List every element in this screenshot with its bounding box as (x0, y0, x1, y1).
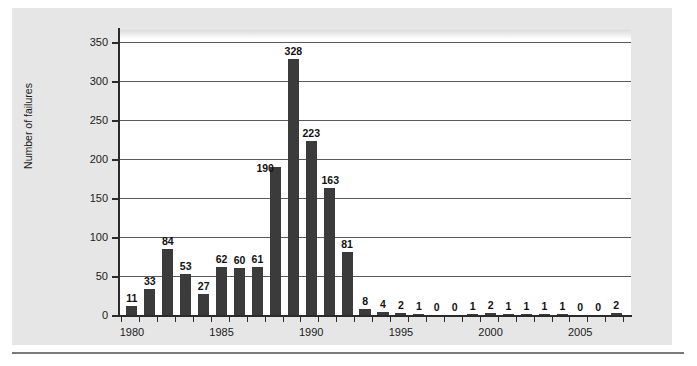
x-axis-line (118, 315, 632, 317)
bar-value-label: 1 (541, 301, 547, 312)
bar (144, 289, 155, 315)
x-tick (318, 315, 319, 322)
bar-value-label: 8 (362, 296, 368, 307)
bar (180, 274, 191, 315)
y-tick-label: 300 (74, 76, 108, 87)
bar (162, 249, 173, 315)
bar-value-label: 190 (256, 163, 274, 174)
x-tick (426, 315, 427, 322)
x-tick (247, 315, 248, 322)
x-tick (372, 315, 373, 322)
y-tick-200 (112, 159, 119, 161)
gridline-150 (119, 198, 631, 199)
x-tick-label: 2000 (478, 326, 502, 338)
y-tick-labels: 050100150200250300350 (68, 0, 108, 366)
x-tick (516, 315, 517, 322)
bar-value-label: 61 (252, 254, 264, 265)
x-tick (605, 315, 606, 322)
bar-value-label: 53 (180, 261, 192, 272)
x-tick-label: 1995 (389, 326, 413, 338)
x-tick-label: 1980 (120, 326, 144, 338)
gridline-300 (119, 81, 631, 82)
bar-value-label: 4 (380, 299, 386, 310)
bar-value-label: 1 (416, 301, 422, 312)
x-tick (157, 315, 158, 322)
x-tick (283, 315, 284, 322)
bar-value-label: 328 (285, 46, 303, 57)
bar-value-label: 27 (198, 281, 210, 292)
gridline-350 (119, 42, 631, 43)
y-tick-300 (112, 81, 119, 83)
bar-value-label: 1 (524, 301, 530, 312)
bar-value-label: 0 (434, 302, 440, 313)
y-tick-label: 150 (74, 193, 108, 204)
gridline-200 (119, 159, 631, 160)
x-tick (121, 315, 122, 322)
y-tick-label: 100 (74, 232, 108, 243)
bar (198, 294, 209, 315)
gridline-100 (119, 237, 631, 238)
x-tick (175, 315, 176, 322)
bar-value-label: 0 (452, 302, 458, 313)
bar-value-label: 2 (398, 300, 404, 311)
x-tick (139, 315, 140, 322)
x-tick (211, 315, 212, 322)
y-tick-350 (112, 42, 119, 44)
x-tick (354, 315, 355, 322)
y-tick-50 (112, 276, 119, 278)
y-tick-label: 200 (74, 154, 108, 165)
y-axis-line (118, 28, 120, 317)
x-tick (498, 315, 499, 322)
bar-value-label: 0 (595, 302, 601, 313)
bar-value-label: 1 (506, 301, 512, 312)
x-tick-label: 2005 (568, 326, 592, 338)
x-tick (229, 315, 230, 322)
bar (216, 267, 227, 315)
bar-value-label: 84 (162, 236, 174, 247)
bar-value-label: 81 (341, 239, 353, 250)
bar (252, 267, 263, 315)
bar (234, 268, 245, 315)
bar-value-label: 11 (126, 293, 137, 304)
x-tick (552, 315, 553, 322)
x-tick (408, 315, 409, 322)
y-tick-250 (112, 120, 119, 122)
bottom-rule (12, 352, 684, 354)
x-tick (336, 315, 337, 322)
bar-value-label: 1 (559, 301, 565, 312)
x-tick (569, 315, 570, 322)
bar (288, 59, 299, 315)
bar (270, 167, 281, 315)
bar-value-label: 163 (322, 175, 340, 186)
plot-area (119, 30, 631, 315)
bar-value-label: 2 (613, 300, 619, 311)
gridline-50 (119, 276, 631, 277)
y-tick-0 (112, 315, 119, 317)
x-tick-label: 1985 (209, 326, 233, 338)
x-tick (193, 315, 194, 322)
x-tick (623, 315, 624, 322)
y-tick-label: 250 (74, 115, 108, 126)
bar-value-label: 1 (470, 301, 476, 312)
y-tick-label: 50 (74, 271, 108, 282)
bar (324, 188, 335, 315)
bar-value-label: 2 (488, 300, 494, 311)
bar (306, 141, 317, 315)
x-tick-label: 1990 (299, 326, 323, 338)
x-tick (480, 315, 481, 322)
gridline-250 (119, 120, 631, 121)
x-tick (444, 315, 445, 322)
figure-page: Number of failures 050100150200250300350… (0, 0, 697, 366)
x-tick (390, 315, 391, 322)
bar-value-label: 33 (144, 276, 156, 287)
y-axis-title: Number of failures (22, 46, 34, 206)
x-tick (587, 315, 588, 322)
bar-value-label: 60 (234, 255, 246, 266)
y-tick-label: 0 (74, 310, 108, 321)
bar (342, 252, 353, 315)
x-tick (534, 315, 535, 322)
bar-value-label: 223 (302, 128, 320, 139)
x-tick (300, 315, 301, 322)
x-tick (462, 315, 463, 322)
x-tick (265, 315, 266, 322)
